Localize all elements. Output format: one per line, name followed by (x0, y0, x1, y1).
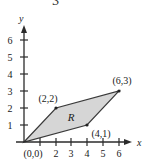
vertex-dot-6-3 (117, 89, 120, 92)
x-tick-label-4: 4 (85, 148, 90, 159)
y-tick-label-2: 2 (8, 103, 13, 114)
y-tick-label-4: 4 (8, 69, 13, 80)
y-tick-label-1: 1 (8, 120, 13, 131)
vertex-dot-2-2 (54, 106, 57, 109)
x-tick-label-2: 2 (54, 148, 59, 159)
x-axis-label: x (136, 137, 142, 148)
figure-container: 3 y x 1 2 3 4 5 (0, 0, 151, 166)
x-tick-label-6: 6 (117, 148, 122, 159)
y-tick-label-6: 6 (8, 35, 13, 46)
y-axis-label: y (18, 13, 24, 24)
y-tick-label-5: 5 (8, 52, 13, 63)
x-tick-label-3: 3 (69, 148, 74, 159)
region-label-R: R (67, 111, 75, 123)
vertex-dot-4-1 (85, 123, 88, 126)
point-label-2-2: (2,2) (38, 93, 57, 105)
point-label-origin: (0,0) (23, 148, 42, 160)
y-axis-arrow (21, 25, 27, 33)
y-tick-label-3: 3 (8, 86, 13, 97)
x-tick-label-5: 5 (101, 148, 106, 159)
x-axis-arrow (124, 139, 132, 145)
coordinate-plot: y x 1 2 3 4 5 6 2 3 4 5 6 (0,0) (2,2) (6… (0, 0, 151, 166)
point-label-4-1: (4,1) (91, 128, 110, 140)
point-label-6-3: (6,3) (112, 75, 131, 87)
